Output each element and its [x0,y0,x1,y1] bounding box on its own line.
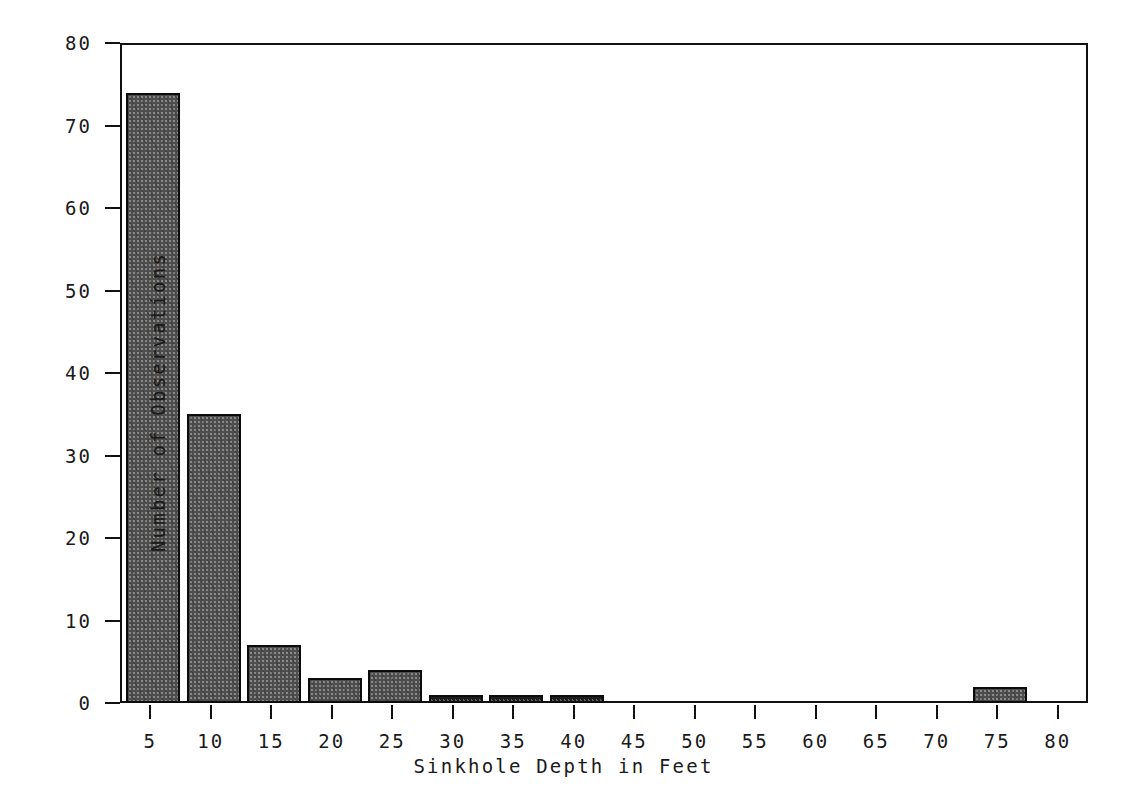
y-axis-tick-mark [105,125,120,127]
x-axis-tick-mark [331,705,333,719]
histogram-bar [308,678,362,703]
x-axis-tick-label: 45 [621,730,648,752]
x-axis-title: Sinkhole Depth in Feet [0,755,1127,777]
y-axis-tick-label: 20 [65,527,92,549]
y-axis-tick-mark [105,42,120,44]
y-axis-tick-label: 80 [65,32,92,54]
y-axis-tick-mark [105,620,120,622]
histogram-bar [550,695,604,703]
y-axis-tick-label: 30 [65,445,92,467]
x-axis-tick-mark [512,705,514,719]
x-axis-tick-mark [936,705,938,719]
y-axis-tick-label: 50 [65,280,92,302]
histogram-bar [247,645,301,703]
x-axis-tick-label: 80 [1044,730,1071,752]
x-axis-tick-mark [1057,705,1059,719]
x-axis-tick-mark [573,705,575,719]
x-axis-tick-label: 15 [258,730,285,752]
x-axis-tick-mark [210,705,212,719]
x-axis-tick-label: 50 [681,730,708,752]
x-axis-tick-label: 75 [984,730,1011,752]
x-axis-tick-label: 55 [742,730,769,752]
y-axis-tick-label: 40 [65,362,92,384]
x-axis-tick-mark [149,705,151,719]
x-axis-tick-label: 5 [144,730,157,752]
histogram-bar [973,687,1027,704]
x-axis-tick-label: 20 [318,730,345,752]
x-axis-tick-mark [270,705,272,719]
y-axis-tick-mark [105,537,120,539]
histogram-bar [489,695,543,703]
x-axis-tick-mark [815,705,817,719]
chart-page: 01020304050607080 Number of Observations… [0,0,1127,804]
x-axis-tick-mark [996,705,998,719]
y-axis-tick-mark [105,455,120,457]
y-axis-tick-label: 10 [65,610,92,632]
y-axis-title: Number of Observations [147,252,169,552]
x-axis-tick-mark [694,705,696,719]
x-axis-tick-mark [754,705,756,719]
bars-layer [120,43,1088,703]
x-axis-tick-label: 30 [439,730,466,752]
histogram-bar [368,670,422,703]
y-axis: 01020304050607080 [0,0,120,804]
y-axis-tick-label: 60 [65,197,92,219]
histogram-bar [187,414,241,703]
x-axis-tick-label: 10 [197,730,224,752]
histogram-bar [429,695,483,703]
x-axis-tick-mark [875,705,877,719]
y-axis-tick-mark [105,207,120,209]
x-axis-tick-mark [452,705,454,719]
x-axis-tick-label: 70 [923,730,950,752]
x-axis-tick-label: 40 [560,730,587,752]
x-axis-tick-label: 35 [500,730,527,752]
x-axis: 5101520253035404550556065707580 [0,703,1127,804]
y-axis-tick-mark [105,290,120,292]
x-axis-tick-label: 25 [379,730,406,752]
x-axis-tick-mark [633,705,635,719]
y-axis-tick-mark [105,372,120,374]
x-axis-tick-label: 60 [802,730,829,752]
x-axis-tick-mark [391,705,393,719]
y-axis-tick-label: 70 [65,115,92,137]
x-axis-tick-label: 65 [863,730,890,752]
